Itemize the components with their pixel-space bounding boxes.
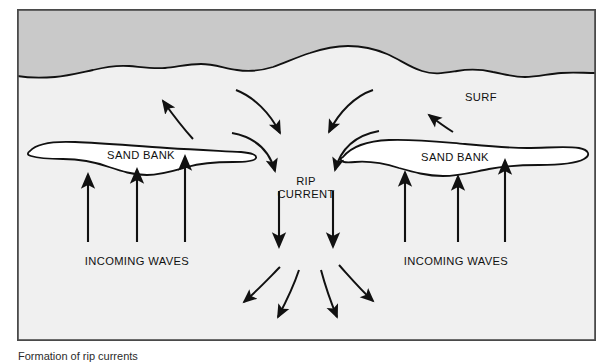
diagram-canvas: SAND BANK SAND BANK RIP CURRENT SURF INC… <box>17 9 596 341</box>
incoming-waves-left-label: INCOMING WAVES <box>85 255 189 267</box>
rip-current-label-line1: RIP <box>296 175 316 187</box>
rip-current-diagram: SAND BANK SAND BANK RIP CURRENT SURF INC… <box>17 9 596 341</box>
rip-current-label-line2: CURRENT <box>277 188 334 200</box>
figure-caption: Formation of rip currents <box>18 350 138 362</box>
sand-bank-right-label: SAND BANK <box>421 151 489 163</box>
figure-page: Figure 269 <box>0 0 608 363</box>
surf-label: SURF <box>465 91 497 103</box>
sand-bank-left-label: SAND BANK <box>107 149 175 161</box>
incoming-waves-right-label: INCOMING WAVES <box>404 255 508 267</box>
